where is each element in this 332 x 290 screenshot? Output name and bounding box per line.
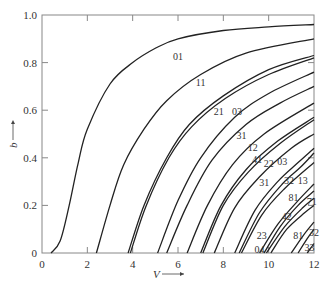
curve-label: 71	[307, 196, 317, 207]
curve-label: 33	[304, 242, 314, 253]
curve-label: 01	[173, 51, 183, 62]
x-tick-label: 8	[221, 258, 227, 270]
x-axis-title: V	[153, 268, 161, 280]
y-tick-label: 0	[32, 247, 38, 259]
x-arrow-head-icon	[180, 272, 184, 276]
tick-labels: 02468101200.20.40.60.81.0	[23, 9, 319, 270]
x-tick-label: 6	[175, 258, 181, 270]
y-tick-label: 0.8	[23, 57, 37, 69]
x-tick-label: 0	[39, 258, 45, 270]
curve-label: 21	[214, 106, 224, 117]
curve-label: 04	[255, 244, 265, 255]
y-tick-label: 0.6	[23, 104, 37, 116]
curve-label: 22	[264, 158, 274, 169]
y-tick-label: 1.0	[23, 9, 37, 21]
curve-label: 23	[257, 230, 267, 241]
curve-label: 13	[298, 175, 308, 186]
curve-label: 32	[309, 227, 319, 238]
curve-label: 32	[284, 175, 294, 186]
curve-label: 03	[277, 156, 287, 167]
curve-label: 42	[282, 211, 292, 222]
curve-label: 31	[236, 130, 246, 141]
x-tick-label: 12	[309, 258, 320, 270]
y-tick-label: 0.2	[23, 199, 37, 211]
y-tick-label: 0.4	[23, 152, 37, 164]
x-tick-label: 2	[85, 258, 91, 270]
curve-label: 11	[196, 77, 206, 88]
y-axis-title: b	[7, 142, 19, 148]
x-tick-label: 10	[263, 258, 275, 270]
x-tick-label: 4	[130, 258, 136, 270]
curve-label: 31	[259, 177, 269, 188]
curve-label: 12	[248, 142, 258, 153]
chart: 02468101200.20.40.60.81.0 01112103311241…	[0, 0, 332, 290]
curve-label: 81	[293, 230, 303, 241]
curve-label: 41	[252, 154, 262, 165]
y-arrow-head-icon	[11, 120, 15, 124]
curve-label: 81	[289, 192, 299, 203]
curve-label: 03	[232, 106, 242, 117]
